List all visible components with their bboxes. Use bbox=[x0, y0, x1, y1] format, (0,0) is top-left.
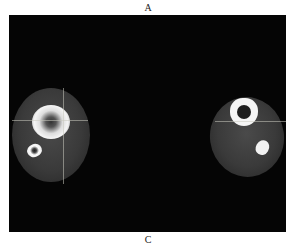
ct-image-frame bbox=[9, 15, 286, 232]
orientation-label-top: A bbox=[0, 2, 296, 13]
right-tibia-medullary-canal bbox=[237, 105, 251, 119]
left-crosshair-vertical bbox=[63, 88, 64, 184]
left-crosshair-horizontal bbox=[12, 120, 88, 121]
right-crosshair-horizontal bbox=[215, 121, 286, 122]
orientation-label-bottom: C bbox=[0, 234, 296, 245]
left-tibia bbox=[32, 105, 70, 139]
